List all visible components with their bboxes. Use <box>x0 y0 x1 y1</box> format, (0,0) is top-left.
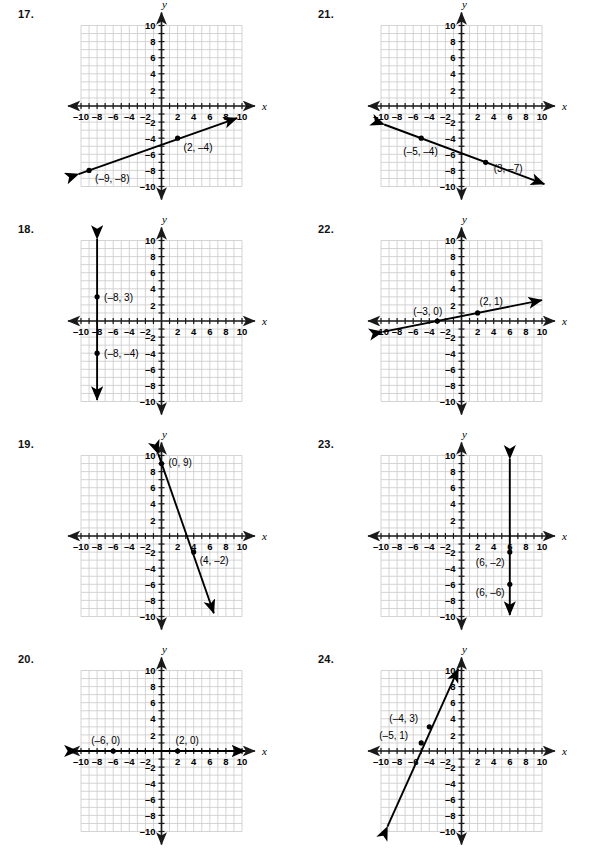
y-tick-label: –4 <box>145 133 156 144</box>
x-axis-label: x <box>261 530 267 542</box>
y-tick-label: –4 <box>145 348 156 359</box>
x-tick-label: –6 <box>408 326 419 337</box>
y-tick-label: 6 <box>450 482 455 493</box>
y-tick-label: –10 <box>440 611 456 622</box>
x-tick-label: –10 <box>73 111 89 122</box>
point-coordinate-label: (–8, –4) <box>104 348 138 359</box>
y-tick-label: –6 <box>145 579 156 590</box>
x-tick-label: –6 <box>108 111 119 122</box>
x-tick-label: –4 <box>124 111 135 122</box>
plotted-point <box>475 310 480 315</box>
coordinate-plane: –10–8–6–4–2246810108642–2–4–6–8–10xy(–5,… <box>340 2 598 217</box>
y-tick-label: 4 <box>450 283 456 294</box>
y-tick-label: 6 <box>150 52 155 63</box>
y-tick-label: 2 <box>150 730 155 741</box>
y-axis-label: y <box>461 2 467 10</box>
x-tick-label: –8 <box>92 541 103 552</box>
problem-18: 18.–10–8–6–4–2246810108642–2–4–6–8–10xy(… <box>0 215 301 432</box>
y-tick-label: –6 <box>445 364 456 375</box>
axes <box>368 13 555 200</box>
y-tick-label: –2 <box>145 762 156 773</box>
x-tick-label: 10 <box>237 111 248 122</box>
x-tick-label: 10 <box>537 541 548 552</box>
y-tick-label: 6 <box>150 697 155 708</box>
plotted-point <box>175 748 180 753</box>
y-axis-label: y <box>161 647 167 655</box>
plotted-point <box>507 550 512 555</box>
y-tick-label: –8 <box>445 380 456 391</box>
y-axis-label: y <box>461 217 467 225</box>
y-tick-label: –8 <box>145 165 156 176</box>
x-tick-label: 2 <box>175 326 180 337</box>
problem-number: 18. <box>18 223 34 235</box>
y-tick-label: –4 <box>145 563 156 574</box>
x-tick-label: 8 <box>523 326 528 337</box>
coordinate-plane: –10–8–6–4–2246810108642–2–4–6–8–10xy(2, … <box>40 2 298 217</box>
x-tick-label: 8 <box>223 111 228 122</box>
worksheet-page: 17.–10–8–6–4–2246810108642–2–4–6–8–10xy(… <box>0 0 603 868</box>
point-coordinate-label: (6, –6) <box>476 587 505 598</box>
y-tick-label: –6 <box>145 794 156 805</box>
graph-container: –10–8–6–4–2246810108642–2–4–6–8–10xy(–3,… <box>340 217 598 432</box>
y-tick-label: –8 <box>145 810 156 821</box>
y-tick-label: –8 <box>445 165 456 176</box>
y-tick-label: –10 <box>440 181 456 192</box>
y-tick-label: 2 <box>150 515 155 526</box>
axes <box>68 443 255 630</box>
plotted-point <box>159 461 164 466</box>
y-tick-label: 8 <box>450 466 455 477</box>
x-tick-label: 4 <box>191 111 197 122</box>
x-tick-label: 6 <box>207 111 212 122</box>
y-tick-label: –10 <box>440 396 456 407</box>
y-tick-label: 8 <box>150 681 155 692</box>
x-tick-label: 6 <box>507 111 512 122</box>
axes <box>68 228 255 415</box>
y-tick-label: 4 <box>150 498 156 509</box>
x-tick-label: 8 <box>223 326 228 337</box>
coordinate-plane: –10–8–6–4–2246810108642–2–4–6–8–10xy(6, … <box>340 432 598 647</box>
y-tick-label: 4 <box>450 68 456 79</box>
y-tick-label: 10 <box>445 450 456 461</box>
y-axis-label: y <box>461 432 467 440</box>
y-tick-label: –10 <box>440 826 456 837</box>
y-tick-label: 8 <box>150 251 155 262</box>
y-tick-label: –2 <box>145 332 156 343</box>
x-tick-label: 6 <box>207 541 212 552</box>
problem-22: 22.–10–8–6–4–2246810108642–2–4–6–8–10xy(… <box>300 215 601 432</box>
x-tick-label: –4 <box>424 541 435 552</box>
y-tick-label: 10 <box>145 20 156 31</box>
y-tick-label: –2 <box>145 117 156 128</box>
x-tick-label: 4 <box>491 756 497 767</box>
problem-number: 22. <box>318 223 334 235</box>
coordinate-plane: –10–8–6–4–2246810108642–2–4–6–8–10xy(–3,… <box>340 217 598 432</box>
point-coordinate-label: (2, –4) <box>184 142 213 153</box>
plotted-point <box>111 748 116 753</box>
x-axis-label: x <box>561 530 567 542</box>
x-axis-label: x <box>561 745 567 757</box>
point-coordinate-label: (4, –2) <box>200 555 229 566</box>
x-tick-label: –8 <box>392 111 403 122</box>
x-axis-label: x <box>561 315 567 327</box>
point-coordinate-label: (–4, 3) <box>389 713 418 724</box>
x-axis-label: x <box>261 745 267 757</box>
graph-container: –10–8–6–4–2246810108642–2–4–6–8–10xy(6, … <box>340 432 598 647</box>
x-tick-label: –4 <box>124 326 135 337</box>
y-tick-label: 8 <box>450 251 455 262</box>
y-tick-label: 2 <box>450 515 455 526</box>
problem-number: 17. <box>18 8 34 20</box>
y-tick-label: –6 <box>445 579 456 590</box>
y-tick-label: 8 <box>450 36 455 47</box>
x-tick-label: 4 <box>491 541 497 552</box>
y-tick-label: –6 <box>445 794 456 805</box>
x-tick-label: 2 <box>175 111 180 122</box>
y-tick-label: –8 <box>145 595 156 606</box>
x-tick-label: –10 <box>373 756 389 767</box>
x-tick-label: 4 <box>191 326 197 337</box>
x-axis-label: x <box>561 100 567 112</box>
y-tick-label: –2 <box>445 547 456 558</box>
plotted-point <box>191 550 196 555</box>
y-tick-label: –10 <box>140 396 156 407</box>
y-tick-label: 10 <box>445 235 456 246</box>
x-tick-label: 2 <box>175 541 180 552</box>
plotted-point <box>427 724 432 729</box>
